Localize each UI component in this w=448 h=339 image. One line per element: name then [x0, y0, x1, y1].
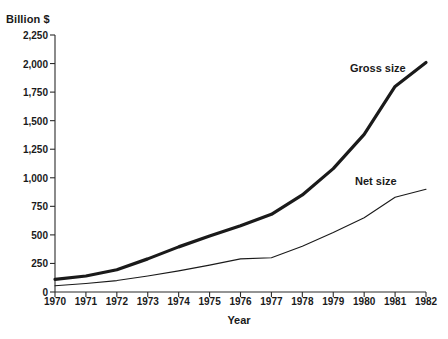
series-label-net-size: Net size	[355, 175, 397, 187]
y-axis-tick-label: 750	[2, 201, 48, 212]
x-axis-tick-label: 1972	[106, 296, 128, 307]
x-axis-tick-label: 1973	[137, 296, 159, 307]
x-axis-tick-label: 1971	[75, 296, 97, 307]
x-axis-tick-label: 1975	[198, 296, 220, 307]
x-axis-title: Year	[0, 314, 448, 326]
series-label-gross-size: Gross size	[350, 62, 406, 74]
x-axis-tick-label: 1970	[44, 296, 66, 307]
y-axis-tick-label: 1,750	[2, 87, 48, 98]
y-axis-tick-label: 250	[2, 258, 48, 269]
y-axis-tick-label: 1,000	[2, 172, 48, 183]
x-axis-tick-label: 1980	[353, 296, 375, 307]
y-axis-tick-label: 0	[2, 287, 48, 298]
chart-container: Billion $ 02505007501,0001,2501,5001,750…	[0, 0, 448, 339]
y-axis-tick-label: 2,000	[2, 58, 48, 69]
y-axis-tick-label: 500	[2, 229, 48, 240]
y-axis-tick-label: 2,250	[2, 30, 48, 41]
y-axis-tick-label: 1,500	[2, 115, 48, 126]
x-axis-tick-label: 1974	[168, 296, 190, 307]
y-axis-tick-label: 1,250	[2, 144, 48, 155]
x-axis-tick-label: 1977	[260, 296, 282, 307]
y-axis-ticks	[50, 35, 55, 292]
x-axis-tick-label: 1979	[322, 296, 344, 307]
x-axis-tick-label: 1982	[415, 296, 437, 307]
x-axis-tick-label: 1981	[384, 296, 406, 307]
x-axis-tick-label: 1978	[291, 296, 313, 307]
series-line-gross-size	[55, 62, 426, 279]
x-axis-tick-label: 1976	[229, 296, 251, 307]
plot-area	[0, 0, 448, 339]
